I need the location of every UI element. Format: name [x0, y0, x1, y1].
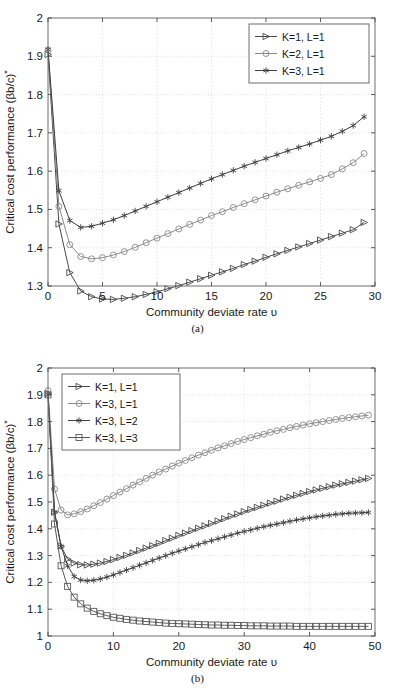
xtick-label: 20 [260, 290, 273, 302]
xtick-label: 30 [238, 640, 251, 652]
ytick-label: 1.4 [27, 523, 44, 535]
ytick-label: 1.8 [27, 89, 43, 101]
xtick-label: 20 [172, 640, 185, 652]
xtick-label: 15 [205, 290, 218, 302]
chart-a-svg: 0510152025301.31.41.51.61.71.81.92Commun… [0, 0, 395, 350]
xtick-label: 40 [303, 640, 316, 652]
chart-b-svg: 0102030405011.11.21.31.41.51.61.71.81.92… [0, 350, 395, 700]
xtick-label: 0 [45, 640, 51, 652]
xtick-label: 30 [369, 290, 382, 302]
ytick-label: 1.5 [27, 496, 43, 508]
ytick-label: 1.9 [27, 389, 43, 401]
legend[interactable]: K=1, L=1K=2, L=1K=3, L=1 [249, 24, 369, 83]
xtick-label: 50 [369, 640, 382, 652]
y-axis-label-text: Critical cost performance (βb/c) [4, 74, 16, 234]
ytick-label: 1.5 [27, 203, 43, 215]
y-axis-label-group: Critical cost performance (βb/c)* [2, 420, 16, 584]
chart-panel-b: 0102030405011.11.21.31.41.51.61.71.81.92… [0, 350, 395, 700]
caption-a: (a) [0, 322, 395, 334]
xtick-label: 10 [151, 290, 164, 302]
ytick-label: 1.7 [27, 442, 43, 454]
ytick-label: 1.9 [27, 50, 43, 62]
ytick-label: 1.6 [27, 165, 43, 177]
legend[interactable]: K=1, L=1K=3, L=1K=3, L=2K=3, L=3 [62, 374, 180, 450]
ytick-label: 1.8 [27, 416, 43, 428]
figure-container: 0510152025301.31.41.51.61.71.81.92Commun… [0, 0, 395, 700]
ytick-label: 1.3 [27, 280, 43, 292]
legend-label: K=2, L=1 [282, 48, 325, 60]
ytick-label: 2 [37, 12, 43, 24]
ytick-label: 1.1 [27, 603, 43, 615]
ytick-label: 1.7 [27, 127, 43, 139]
y-axis-label-text: Critical cost performance (βb/c) [4, 424, 16, 584]
xtick-label: 25 [314, 290, 327, 302]
y-axis-label: Critical cost performance (βb/c)* [2, 70, 16, 234]
legend-label: K=1, L=1 [282, 31, 325, 43]
ytick-label: 1.2 [27, 576, 43, 588]
ytick-label: 1.4 [27, 242, 44, 254]
legend-label: K=3, L=1 [95, 398, 138, 410]
legend-label: K=3, L=3 [95, 432, 138, 444]
xtick-label: 10 [107, 640, 120, 652]
ytick-label: 2 [37, 362, 43, 374]
x-axis-label: Community deviate rate υ [146, 306, 277, 318]
ytick-label: 1 [37, 630, 43, 642]
legend-label: K=1, L=1 [95, 381, 138, 393]
ytick-label: 1.3 [27, 550, 43, 562]
legend-label: K=3, L=2 [95, 415, 138, 427]
chart-panel-a: 0510152025301.31.41.51.61.71.81.92Commun… [0, 0, 395, 350]
ytick-label: 1.6 [27, 469, 43, 481]
xtick-label: 5 [99, 290, 105, 302]
x-axis-label: Community deviate rate υ [146, 656, 277, 668]
legend-label: K=3, L=1 [282, 65, 325, 77]
y-axis-label-group: Critical cost performance (βb/c)* [2, 70, 16, 234]
xtick-label: 0 [45, 290, 51, 302]
y-axis-label-superscript: * [2, 70, 12, 74]
y-axis-label: Critical cost performance (βb/c)* [2, 420, 16, 584]
y-axis-label-superscript: * [2, 420, 12, 424]
caption-b: (b) [0, 672, 395, 684]
